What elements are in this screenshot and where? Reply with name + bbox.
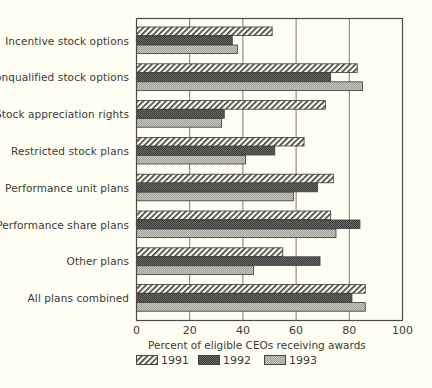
legend-label: 1993 bbox=[289, 354, 317, 367]
x-tick-label: 20 bbox=[183, 324, 197, 337]
legend-swatch-dark-icon bbox=[198, 355, 220, 365]
legend-swatch-light-icon bbox=[264, 355, 286, 365]
bar-1992 bbox=[137, 73, 331, 82]
category-label: Nonqualified stock options bbox=[0, 71, 129, 83]
legend-label: 1991 bbox=[161, 354, 189, 367]
x-tick-label: 80 bbox=[342, 324, 356, 337]
bar-1992 bbox=[137, 110, 225, 119]
x-tick-label: 0 bbox=[133, 324, 140, 337]
bar-1992 bbox=[137, 183, 318, 192]
bar-1993 bbox=[137, 229, 337, 238]
bar-1992 bbox=[137, 146, 275, 155]
category-label: Other plans bbox=[67, 255, 129, 267]
bar-series bbox=[137, 27, 366, 311]
bar-1992 bbox=[137, 220, 360, 229]
x-tick-label: 40 bbox=[236, 324, 250, 337]
bar-1992 bbox=[137, 257, 321, 266]
bar-1993 bbox=[137, 82, 363, 91]
bar-1993 bbox=[137, 155, 246, 164]
legend-item-1991: 1991 bbox=[136, 355, 189, 365]
legend-label: 1992 bbox=[223, 354, 251, 367]
legend-swatch-hatch-icon bbox=[136, 355, 158, 365]
legend-item-1992: 1992 bbox=[198, 355, 251, 365]
bar-1993 bbox=[137, 45, 238, 54]
category-label: Incentive stock options bbox=[5, 35, 129, 47]
bar-1993 bbox=[137, 303, 366, 312]
bar-1991 bbox=[137, 137, 305, 146]
chart-plot-area bbox=[0, 0, 432, 388]
category-label: Performance unit plans bbox=[5, 182, 129, 194]
bar-1991 bbox=[137, 101, 326, 110]
bar-1991 bbox=[137, 27, 273, 36]
bar-1991 bbox=[137, 285, 366, 294]
bar-1992 bbox=[137, 294, 352, 303]
bar-1991 bbox=[137, 211, 331, 220]
bar-1992 bbox=[137, 36, 233, 45]
bar-1991 bbox=[137, 174, 334, 183]
category-label: All plans combined bbox=[28, 292, 129, 304]
bar-1993 bbox=[137, 266, 254, 275]
x-tick-label: 60 bbox=[289, 324, 303, 337]
category-label: Performance share plans bbox=[0, 219, 129, 231]
category-label: Stock appreciation rights bbox=[0, 108, 129, 120]
x-axis-label: Percent of eligible CEOs receiving award… bbox=[148, 339, 366, 351]
category-label: Restricted stock plans bbox=[11, 145, 129, 157]
bar-1991 bbox=[137, 64, 358, 73]
bar-1993 bbox=[137, 119, 222, 128]
legend-item-1993: 1993 bbox=[264, 355, 317, 365]
bar-1993 bbox=[137, 192, 294, 201]
bar-1991 bbox=[137, 248, 283, 257]
x-tick-label: 100 bbox=[392, 324, 413, 337]
